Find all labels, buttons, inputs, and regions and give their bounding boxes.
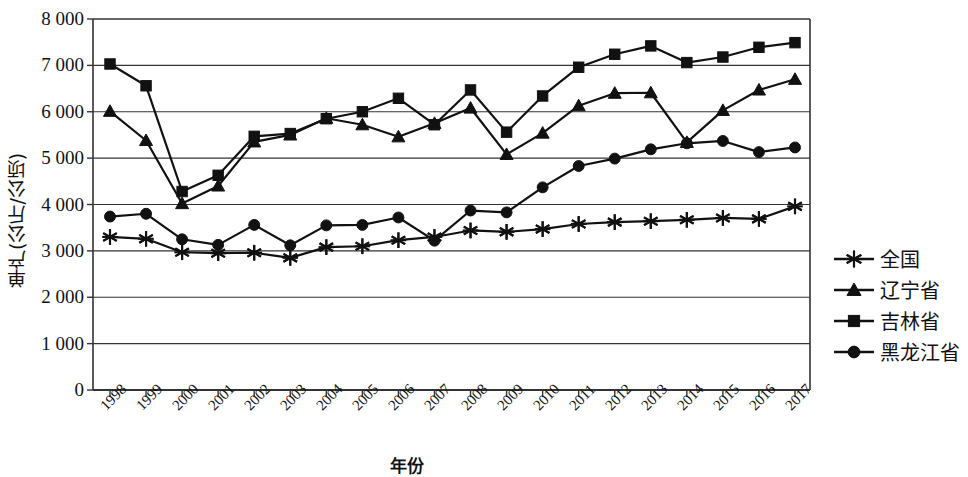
data-point (465, 205, 476, 216)
legend-label: 吉林省 (876, 306, 940, 335)
chart-legend: 全国辽宁省吉林省黑龙江省 (832, 243, 968, 367)
data-point (537, 91, 547, 101)
data-point (573, 62, 583, 72)
data-point (105, 211, 116, 222)
data-point (463, 223, 479, 239)
legend-item-4[interactable]: 黑龙江省 (832, 336, 968, 367)
data-point (645, 144, 656, 155)
legend-item-2[interactable]: 辽宁省 (832, 274, 968, 305)
data-point (679, 212, 695, 228)
data-point (141, 208, 152, 219)
data-point (501, 127, 511, 137)
data-point (571, 216, 587, 232)
data-point (789, 73, 802, 85)
legend-marker-circle-icon (832, 339, 876, 365)
data-point (646, 41, 656, 51)
data-point (285, 240, 296, 251)
data-point (282, 250, 298, 266)
data-point (499, 224, 515, 240)
data-point (429, 120, 439, 130)
data-point (391, 232, 407, 248)
legend-marker-glyph (848, 315, 859, 326)
data-point (754, 42, 764, 52)
legend-marker-star-icon (832, 246, 876, 272)
data-point (465, 85, 475, 95)
data-point (246, 245, 262, 261)
data-point (319, 239, 335, 255)
data-point (105, 59, 115, 69)
data-point (141, 81, 151, 91)
legend-label: 黑龙江省 (876, 337, 960, 366)
data-point (753, 147, 764, 158)
legend-label: 全国 (876, 244, 920, 273)
data-point (393, 212, 404, 223)
legend-item-1[interactable]: 全国 (832, 243, 968, 274)
legend-marker-glyph (846, 250, 863, 267)
legend-item-3[interactable]: 吉林省 (832, 305, 968, 336)
data-point (321, 114, 331, 124)
legend-marker-glyph (848, 346, 860, 358)
data-point (393, 93, 403, 103)
data-point (607, 214, 623, 230)
data-point (104, 105, 117, 117)
data-point (610, 49, 620, 59)
data-point (790, 142, 801, 153)
data-point (718, 52, 728, 62)
data-point (573, 161, 584, 172)
data-point (787, 199, 803, 215)
data-point (355, 238, 371, 254)
series-1 (102, 199, 803, 266)
data-point (321, 220, 332, 231)
data-point (717, 136, 728, 147)
data-point (249, 131, 259, 141)
data-point (537, 182, 548, 193)
data-point (790, 37, 800, 47)
legend-marker-square-icon (832, 308, 876, 334)
data-point (643, 213, 659, 229)
data-point (681, 138, 692, 149)
data-point (501, 207, 512, 218)
data-point (213, 170, 223, 180)
data-point (609, 153, 620, 164)
series-3 (105, 37, 800, 196)
data-point (249, 219, 260, 230)
data-point (177, 234, 188, 245)
series-2 (104, 73, 802, 209)
x-axis-title: 年份 (390, 452, 424, 477)
data-point (102, 229, 118, 245)
data-point (285, 128, 295, 138)
data-point (464, 102, 477, 114)
data-point (715, 210, 731, 226)
data-point (682, 57, 692, 67)
data-point (213, 239, 224, 250)
data-point (716, 104, 729, 116)
data-point (176, 197, 189, 209)
legend-marker-triangle-icon (832, 277, 876, 303)
data-point (138, 231, 154, 247)
series-line (110, 141, 795, 245)
data-point (357, 107, 367, 117)
data-point (357, 219, 368, 230)
data-point (429, 235, 440, 246)
data-point (751, 211, 767, 227)
data-point (177, 186, 187, 196)
legend-label: 辽宁省 (876, 275, 940, 304)
data-point (535, 221, 551, 237)
data-point (174, 244, 190, 260)
